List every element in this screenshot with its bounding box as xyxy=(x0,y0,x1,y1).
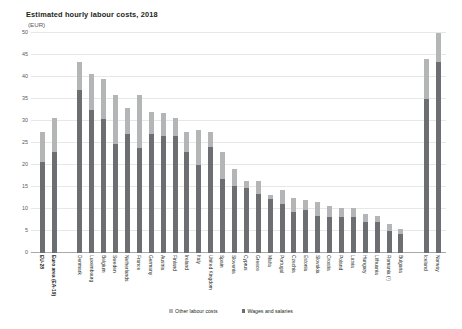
bar-column xyxy=(77,62,82,253)
y-axis-tick-label: 30 xyxy=(22,117,28,123)
bar-segment-other xyxy=(339,208,344,217)
legend-label-wages: Wages and salaries xyxy=(248,308,293,314)
bar-segment-wages xyxy=(436,62,441,253)
legend-label-other: Other labour costs xyxy=(175,308,217,314)
chart-title: Estimated hourly labour costs, 2018 xyxy=(26,10,158,19)
y-axis-tick-label: 15 xyxy=(22,183,28,189)
x-axis-tick-label: Latvia xyxy=(350,255,355,268)
bar-segment-wages xyxy=(303,210,308,253)
bar-segment-other xyxy=(363,214,368,222)
bar-segment-other xyxy=(125,108,130,134)
bar-segment-wages xyxy=(113,144,118,253)
y-axis-tick-label: 45 xyxy=(22,51,28,57)
bar-column xyxy=(161,113,166,253)
bar-column xyxy=(398,229,403,253)
bar-segment-other xyxy=(232,169,237,186)
y-axis-tick-label: 0 xyxy=(25,249,28,255)
y-axis-tick-label: 20 xyxy=(22,161,28,167)
legend-swatch-icon-other xyxy=(169,309,173,313)
bar-segment-wages xyxy=(196,165,201,253)
bar-segment-wages xyxy=(208,147,213,253)
bar-segment-other xyxy=(89,74,94,110)
bar-column xyxy=(424,59,429,253)
bar-column xyxy=(101,79,106,253)
bar-column xyxy=(387,224,392,253)
x-axis-tick-label: France xyxy=(136,255,141,270)
bar-column xyxy=(268,195,273,254)
bar-segment-wages xyxy=(398,234,403,253)
x-axis-tick-label: Sweden xyxy=(112,255,117,273)
x-axis-tick-label: Portugal xyxy=(279,255,284,273)
bar-column xyxy=(196,130,201,253)
bar-column xyxy=(303,200,308,253)
bar-segment-wages xyxy=(184,152,189,253)
x-axis-tick-label: Austria xyxy=(160,255,165,270)
x-axis-tick-label: Bulgaria xyxy=(398,255,403,273)
bar-segment-other xyxy=(303,200,308,211)
bar-segment-wages xyxy=(268,199,273,253)
bar-column xyxy=(149,112,154,253)
bar-column xyxy=(125,108,130,253)
bar-segment-wages xyxy=(40,162,45,253)
bar-segment-wages xyxy=(244,188,249,253)
bar-column xyxy=(232,169,237,253)
bar-segment-wages xyxy=(315,216,320,253)
bar-column xyxy=(40,132,45,253)
x-axis-tick-label: EU-28 xyxy=(39,255,44,269)
bar-column xyxy=(173,118,178,253)
bar-segment-wages xyxy=(363,222,368,253)
bar-segment-other xyxy=(291,198,296,212)
bar-column xyxy=(351,208,356,253)
bar-segment-wages xyxy=(161,136,166,253)
x-axis-tick-label: Romania (¹) xyxy=(386,255,391,281)
x-axis-tick-label: Euro area (EA-19) xyxy=(51,255,56,296)
x-axis-tick-label: Cyprus xyxy=(243,255,248,271)
x-axis-tick-label: Hungary xyxy=(362,255,367,274)
x-axis-tick-label: Belgium xyxy=(101,255,106,273)
bar-column xyxy=(315,202,320,253)
bar-segment-wages xyxy=(173,136,178,253)
bar-segment-other xyxy=(113,95,118,145)
x-axis-tick-label: Greece xyxy=(255,255,260,271)
y-axis-tick-label: 5 xyxy=(25,227,28,233)
bar-segment-other xyxy=(387,224,392,231)
bar-column xyxy=(375,216,380,253)
x-axis-tick-label: Iceland xyxy=(423,255,428,271)
bar-column xyxy=(113,95,118,253)
bar-column xyxy=(52,118,57,253)
bar-column xyxy=(436,33,441,253)
bar-segment-wages xyxy=(52,152,57,253)
y-axis-tick-label: 40 xyxy=(22,73,28,79)
y-axis-tick-label: 35 xyxy=(22,95,28,101)
bar-segment-wages xyxy=(375,222,380,253)
bar-column xyxy=(89,74,94,253)
legend-item-wages-and-salaries: Wages and salaries xyxy=(242,308,293,314)
bar-segment-other xyxy=(161,113,166,135)
bar-segment-wages xyxy=(280,204,285,253)
bar-segment-other xyxy=(424,59,429,99)
bar-segment-wages xyxy=(101,119,106,253)
bars-layer xyxy=(31,33,446,253)
bar-segment-other xyxy=(196,130,201,165)
bar-segment-wages xyxy=(77,90,82,253)
bar-column xyxy=(244,181,249,253)
bar-segment-other xyxy=(280,190,285,204)
x-axis-tick-label: Slovenia xyxy=(231,255,236,274)
bar-segment-other xyxy=(149,112,154,134)
bar-column xyxy=(280,190,285,253)
bar-segment-wages xyxy=(125,134,130,253)
x-axis-tick-label: Germany xyxy=(148,255,153,275)
bar-column xyxy=(184,132,189,253)
chart-subtitle-units: (EUR) xyxy=(28,21,45,28)
bar-segment-wages xyxy=(351,217,356,253)
x-axis-tick-label: Ireland xyxy=(184,255,189,270)
x-axis-tick-label: Italy xyxy=(196,255,201,264)
bar-segment-other xyxy=(220,152,225,179)
x-axis-tick-label: Malta xyxy=(267,255,272,267)
chart-container: Estimated hourly labour costs, 2018 (EUR… xyxy=(0,0,462,329)
x-axis-tick-label: Spain xyxy=(219,255,224,268)
bar-segment-wages xyxy=(149,134,154,253)
x-axis-tick-label: Slovakia xyxy=(315,255,320,274)
bar-segment-other xyxy=(327,206,332,217)
x-axis-tick-label: Denmark xyxy=(77,255,82,275)
